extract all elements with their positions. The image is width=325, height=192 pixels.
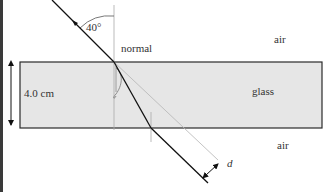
angle-label: 40° bbox=[86, 21, 101, 33]
refraction-diagram: 40° normal air glass air 4.0 cm d bbox=[0, 0, 325, 192]
glass-label: glass bbox=[252, 85, 274, 97]
emergent-ray bbox=[151, 128, 208, 183]
glass-block bbox=[20, 62, 322, 128]
normal-label: normal bbox=[121, 42, 152, 54]
thickness-label: 4.0 cm bbox=[24, 87, 54, 99]
air-top-label: air bbox=[274, 33, 286, 45]
displacement-label: d bbox=[227, 157, 233, 169]
displacement-arrow bbox=[206, 164, 218, 175]
air-bottom-label: air bbox=[277, 139, 289, 151]
incident-ray bbox=[52, 0, 114, 62]
